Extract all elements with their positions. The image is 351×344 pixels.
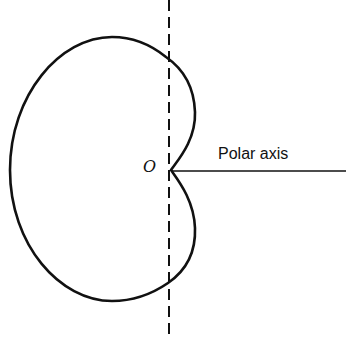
origin-label: O	[143, 159, 156, 175]
cardioid-diagram	[0, 0, 351, 344]
polar-axis-label: Polar axis	[218, 146, 288, 162]
cardioid-curve	[10, 37, 195, 301]
